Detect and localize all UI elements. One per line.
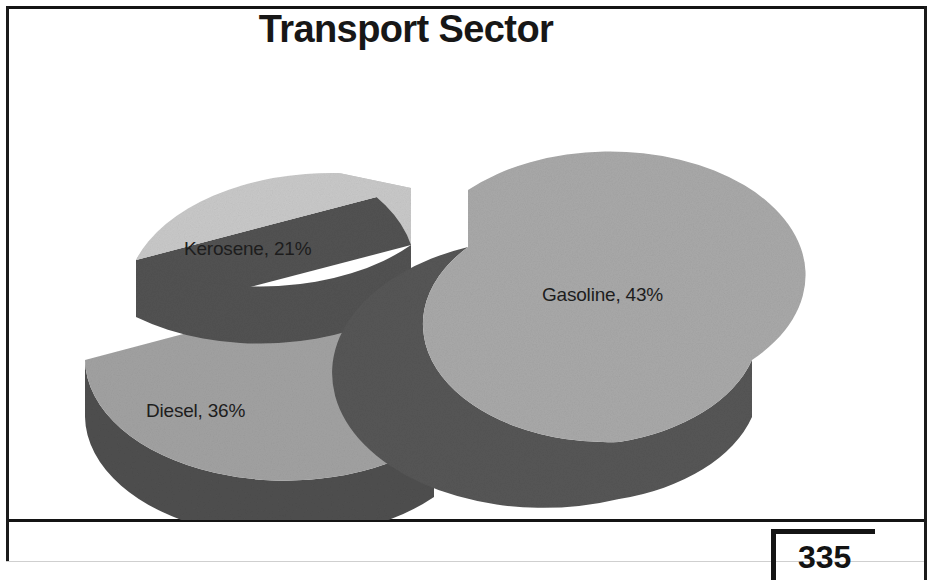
pie-label-gasoline: Gasoline, 43% (542, 284, 663, 306)
pie-label-diesel: Diesel, 36% (146, 400, 245, 422)
page-canvas: Transport Sector (0, 0, 941, 580)
page-number: 335 (798, 539, 851, 576)
chart-title: Transport Sector (0, 8, 812, 51)
frame-right-edge (924, 6, 927, 580)
pie-chart-svg (9, 60, 924, 520)
page-number-box: 335 (771, 529, 875, 580)
pie-chart-plot-area: Kerosene, 21% Diesel, 36% Gasoline, 43% (9, 60, 924, 520)
pie-label-kerosene: Kerosene, 21% (184, 238, 311, 260)
